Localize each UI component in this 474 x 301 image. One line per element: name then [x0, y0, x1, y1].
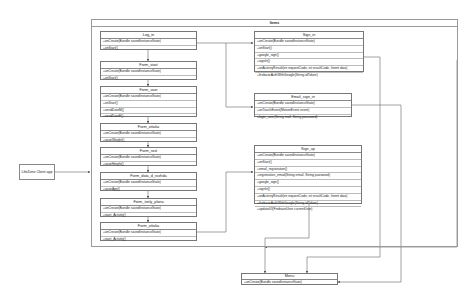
- class-name: Log_in: [101, 32, 196, 39]
- class-form-ves: Form_ottaka +onCreate(Bundle savedInstan…: [100, 123, 197, 142]
- class-sign-up: Sign_up +onCreate(Bundle savedInstanceSt…: [254, 145, 362, 204]
- class-operation: +onCreate(Bundle savedInstanceState): [255, 153, 361, 160]
- class-operation: +email_registration(): [255, 167, 361, 174]
- class-form-ottaka: Form_ottaka +onCreate(Bundle savedInstan…: [100, 222, 197, 241]
- class-operation: +onCreate(Bundle savedInstanceState): [101, 155, 196, 162]
- class-operation: +saveAge(): [101, 187, 196, 193]
- package-title: Items: [92, 20, 457, 27]
- external-system-label: LifeZone Client app: [21, 170, 52, 174]
- class-operation: +start_Activity(): [101, 213, 196, 219]
- class-operation: +onStart(): [255, 160, 361, 167]
- class-log-in: Log_in +onCreate(Bundle savedInstanceSta…: [100, 31, 197, 50]
- class-operation: +signIn(): [255, 59, 363, 66]
- class-operation: +onCreate(Bundle savedInstanceState): [101, 180, 196, 187]
- class-name: Form_data_d_rozhda: [101, 173, 196, 180]
- class-form-vozr: Form_vozr +onCreate(Bundle savedInstance…: [100, 86, 197, 117]
- class-name: Sign_in: [255, 32, 363, 39]
- class-form-data-rozhda: Form_data_d_rozhda +onCreate(Bundle save…: [100, 172, 197, 191]
- external-system-lifezone: LifeZone Client app: [19, 164, 55, 180]
- class-operation: +onCreate(Bundle savedInstanceState): [101, 39, 196, 46]
- class-operation: +onStart(): [101, 46, 196, 52]
- class-operation: +saveWeight(): [101, 138, 196, 144]
- class-operation: +registration_email(String email, String…: [255, 173, 361, 180]
- class-sign-in: Sign_in +onCreate(Bundle savedInstanceSt…: [254, 31, 364, 72]
- class-operation: +onCreate(Bundle savedInstanceState): [242, 280, 337, 286]
- class-operation: +onTouchEvent(MotionEvent event): [255, 108, 351, 115]
- class-operation: +start_Activity(): [101, 237, 196, 243]
- class-name: Sign_up: [255, 146, 361, 153]
- class-operation: +updateUI(FirebaseUser currentUser): [255, 207, 361, 213]
- class-operation: +google_sign(): [255, 53, 363, 60]
- class-name: Form_tsely_plana: [101, 199, 196, 206]
- class-operation: +onActivityResult(int requestCode, int r…: [255, 194, 361, 201]
- class-operation: +login_user(String mail, String password…: [255, 115, 351, 121]
- class-operation: +sendDateM(): [101, 108, 196, 115]
- class-operation: +onStart(): [101, 76, 196, 82]
- class-name: Email_sign_in: [255, 94, 351, 101]
- class-name: Form_rost: [101, 148, 196, 155]
- class-operation: +onCreate(Bundle savedInstanceState): [101, 69, 196, 76]
- class-operation: +onCreate(Bundle savedInstanceState): [101, 230, 196, 237]
- class-operation: +onCreate(Bundle savedInstanceState): [101, 131, 196, 138]
- class-operation: +firebaseAuthWithGoogle(String idToken): [255, 201, 361, 208]
- class-menu: Menu +onCreate(Bundle savedInstanceState…: [241, 273, 338, 285]
- class-name: Form_vozr: [101, 87, 196, 94]
- class-operation: +google_sign(): [255, 180, 361, 187]
- class-name: Form_ottaka: [101, 223, 196, 230]
- class-form-tsely: Form_tsely_plana +onCreate(Bundle savedI…: [100, 198, 197, 217]
- class-operation: +saveHeight(): [101, 162, 196, 168]
- class-operation: +onCreate(Bundle savedInstanceState): [255, 39, 363, 46]
- class-operation: +firebaseAuthWithGoogle(String idToken): [255, 73, 363, 79]
- class-operation: +onCreate(Bundle savedInstanceState): [101, 206, 196, 213]
- class-operation: +onActivityResult(int requestCode, int r…: [255, 66, 363, 73]
- class-operation: +onCreate(Bundle savedInstanceState): [101, 94, 196, 101]
- class-operation: +signIn(): [255, 187, 361, 194]
- class-name: Form_start: [101, 62, 196, 69]
- class-form-rost: Form_rost +onCreate(Bundle savedInstance…: [100, 147, 197, 166]
- class-operation: +onStart(): [101, 101, 196, 108]
- class-name: Form_ottaka: [101, 124, 196, 131]
- uml-class-diagram: LifeZone Client app Items Log_in +onCrea…: [0, 0, 474, 301]
- class-form-start: Form_start +onCreate(Bundle savedInstanc…: [100, 61, 197, 80]
- class-operation: +onCreate(Bundle savedInstanceState): [255, 101, 351, 108]
- class-operation: +sendDateF(): [101, 114, 196, 120]
- class-email-sign-in: Email_sign_in +onCreate(Bundle savedInst…: [254, 93, 352, 117]
- class-operation: +onStart(): [255, 46, 363, 53]
